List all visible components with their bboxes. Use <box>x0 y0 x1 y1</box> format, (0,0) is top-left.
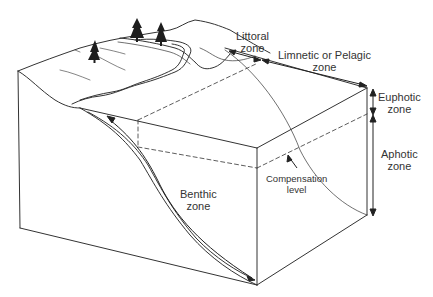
benthic-slope-inner <box>88 112 252 278</box>
label-line: Limnetic or Pelagic <box>278 49 371 61</box>
arrowhead <box>359 82 367 87</box>
land-contour <box>60 70 90 80</box>
compensation-level-front <box>138 147 257 168</box>
land-contour <box>95 55 125 70</box>
arrowhead <box>107 116 115 123</box>
arrowhead <box>370 89 376 96</box>
label-line: Aphotic <box>381 148 418 160</box>
compensation-level-label: Compensation level <box>266 173 327 195</box>
littoral-zone-label: Littoral zone <box>236 30 269 54</box>
label-line: level <box>266 184 327 195</box>
label-line: zone <box>378 103 421 115</box>
arrowhead <box>287 155 292 162</box>
compensation-level-right <box>257 114 367 168</box>
pine-tree-icon <box>130 18 144 38</box>
water-surface-front <box>80 108 257 148</box>
benthic-slope-outer <box>80 108 257 285</box>
shoreline <box>72 39 191 104</box>
river-bank-1 <box>120 38 230 69</box>
label-line: zone <box>278 61 371 73</box>
label-line: Littoral <box>236 30 269 42</box>
aphotic-zone-label: Aphotic zone <box>381 148 418 172</box>
arrowhead <box>370 115 376 122</box>
label-line: Compensation <box>266 173 327 184</box>
lake-zonation-diagram: Littoral zone Limnetic or Pelagic zone E… <box>0 0 433 297</box>
block-diagram-drawing <box>0 0 433 297</box>
label-line: Benthic <box>180 188 217 200</box>
land-horizon <box>18 20 270 71</box>
arrowhead <box>247 276 255 281</box>
benthic-zone-label: Benthic zone <box>180 188 217 212</box>
block-left-edge <box>18 71 20 228</box>
littoral-boundary-surface <box>138 63 258 120</box>
label-line: zone <box>236 42 269 54</box>
limnetic-zone-label: Limnetic or Pelagic zone <box>278 49 371 73</box>
land-left-slope <box>18 71 80 108</box>
trees <box>88 18 167 63</box>
land-contour <box>100 48 125 54</box>
water-surface-right <box>257 88 367 148</box>
label-line: Euphotic <box>378 91 421 103</box>
arrowhead <box>370 209 376 216</box>
euphotic-zone-label: Euphotic zone <box>378 91 421 115</box>
block-bottom-right-edge <box>257 215 367 285</box>
land-contour <box>75 50 80 52</box>
label-line: zone <box>381 160 418 172</box>
arrowhead <box>262 59 269 64</box>
label-line: zone <box>180 200 217 212</box>
